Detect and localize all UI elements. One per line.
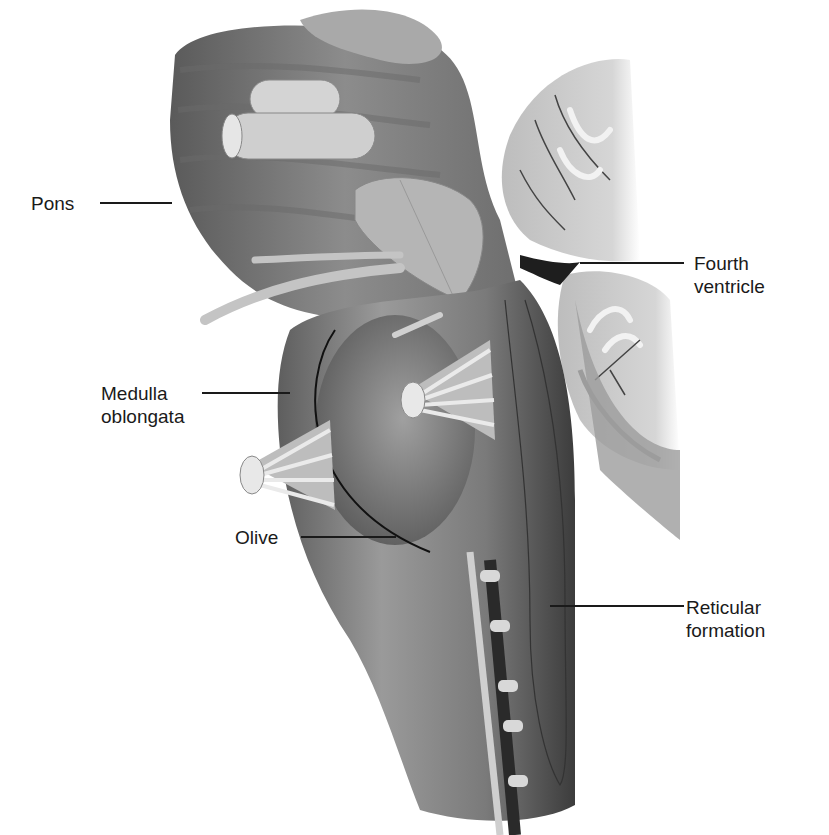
label-fourth-ventricle: Fourth ventricle <box>694 252 765 298</box>
label-pons: Pons <box>31 192 74 215</box>
cerebellum-upper <box>502 59 640 261</box>
label-reticular-formation: Reticular formation <box>686 596 765 642</box>
leader-line-fourth-ventricle <box>580 262 684 264</box>
label-olive: Olive <box>235 526 278 549</box>
leader-line-reticular-formation <box>550 605 684 607</box>
leader-line-olive <box>301 536 396 538</box>
olive-shape <box>315 315 475 545</box>
leader-line-pons <box>100 202 172 204</box>
leader-line-medulla-oblongata <box>202 392 290 394</box>
label-medulla-oblongata: Medulla oblongata <box>101 382 184 428</box>
